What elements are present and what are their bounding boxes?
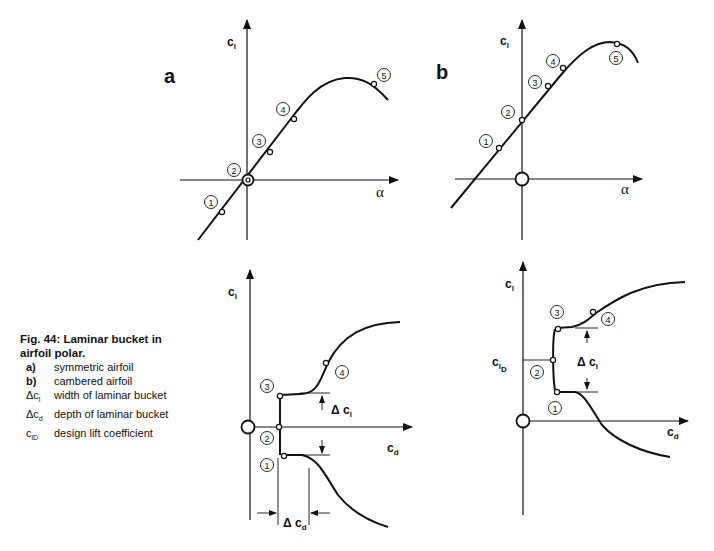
- laminar-bucket-diagram: a b cl cl cl cl cd cd clD Δ cl Δ cd Δ cl…: [0, 0, 714, 551]
- figure-caption: Fig. 44: Laminar bucket in airfoil polar…: [20, 332, 220, 446]
- svg-text:1: 1: [264, 461, 269, 471]
- svg-text:3: 3: [554, 308, 559, 318]
- svg-text:4: 4: [280, 105, 285, 115]
- caption-item-delta-cl: Δcl width of laminar bucket: [20, 388, 220, 407]
- svg-text:4: 4: [339, 368, 344, 378]
- svg-text:2: 2: [505, 108, 510, 118]
- svg-text:1: 1: [552, 404, 557, 414]
- svg-text:cl: cl: [505, 277, 514, 293]
- svg-text:2: 2: [534, 368, 539, 378]
- svg-text:cl: cl: [500, 34, 509, 50]
- panel-label-a: a: [164, 65, 176, 87]
- svg-text:Δ cl: Δ cl: [577, 355, 598, 371]
- svg-text:1: 1: [208, 198, 213, 208]
- svg-text:α: α: [621, 181, 629, 197]
- caption-item-b: b) cambered airfoil: [20, 374, 220, 388]
- caption-item-delta-cd: Δcd depth of laminar bucket: [20, 407, 220, 426]
- svg-text:1: 1: [483, 137, 488, 147]
- svg-text:4: 4: [605, 315, 610, 325]
- svg-text:2: 2: [264, 434, 269, 444]
- caption-item-a: a) symmetric airfoil: [20, 360, 220, 374]
- svg-text:2: 2: [231, 166, 236, 176]
- svg-text:4: 4: [550, 57, 555, 67]
- svg-text:Δ cd: Δ cd: [283, 516, 307, 532]
- svg-text:cl: cl: [228, 285, 237, 301]
- caption-title-line1: Fig. 44: Laminar bucket in: [20, 332, 220, 346]
- svg-text:3: 3: [264, 382, 269, 392]
- point-number-circles: [205, 52, 623, 472]
- panel-b-drag-polar: [517, 262, 689, 515]
- svg-text:Δ cl: Δ cl: [331, 403, 352, 419]
- svg-text:5: 5: [381, 71, 386, 81]
- svg-text:3: 3: [532, 78, 537, 88]
- svg-text:cl: cl: [227, 35, 236, 51]
- svg-text:clD: clD: [492, 355, 507, 374]
- caption-item-cld: clD design lift coefficient: [20, 426, 220, 445]
- caption-title-line2: airfoil polar.: [20, 346, 220, 360]
- svg-text:cd: cd: [667, 425, 679, 441]
- svg-text:cd: cd: [387, 441, 399, 457]
- svg-text:α: α: [376, 184, 384, 200]
- panel-label-b: b: [436, 61, 448, 83]
- panel-a-drag-polar: [242, 270, 413, 527]
- svg-text:5: 5: [613, 54, 618, 64]
- svg-text:3: 3: [256, 137, 261, 147]
